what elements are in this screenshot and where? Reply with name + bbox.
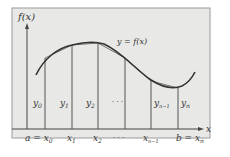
abscissa-label-0: a = x0 — [25, 133, 53, 144]
trapezoid-rule-diagram: f(x) y = f(x) x y0 y1 y2 · · · yn−1 yn a… — [0, 0, 230, 157]
curve-label: y = f(x) — [116, 37, 147, 46]
y-axis-label: f(x) — [17, 11, 35, 22]
abscissa-ellipsis: · · · — [113, 134, 124, 142]
ordinate-ellipsis: · · · — [112, 98, 123, 106]
x-axis-label: x — [206, 124, 211, 134]
figure-panel — [12, 8, 210, 138]
abscissa-label-n: b = xn — [176, 133, 204, 144]
